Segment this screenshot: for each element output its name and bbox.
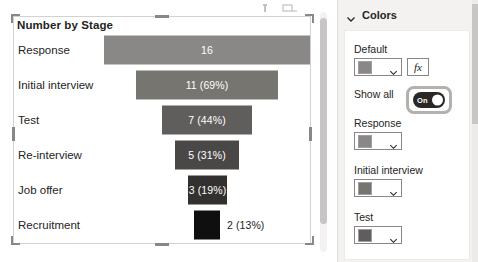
funnel-data-label: 5 (31%) (188, 149, 225, 161)
series-color-dropdown[interactable] (354, 179, 402, 197)
funnel-plot-area[interactable]: Response16Initial interview11 (69%)Test7… (14, 32, 310, 242)
chevron-down-icon (389, 231, 398, 240)
default-color-dropdown[interactable] (354, 58, 402, 76)
chevron-down-icon (389, 184, 398, 193)
funnel-row[interactable]: Recruitment2 (13%) (14, 207, 310, 242)
funnel-bar[interactable]: 16 (104, 35, 310, 64)
chart-title: Number by Stage (17, 19, 113, 31)
show-all-label: Show all (354, 88, 394, 100)
funnel-data-label: 2 (13%) (227, 219, 264, 231)
colors-section-header[interactable]: Colors (338, 4, 473, 26)
format-pane[interactable]: Colors Default fx Show all ResponseIniti… (337, 0, 478, 262)
show-all-field: Show all (354, 88, 394, 103)
colors-card: Default fx Show all ResponseInitial inte… (344, 30, 470, 260)
chevron-down-icon (389, 137, 398, 146)
funnel-bar[interactable]: 5 (31%) (175, 140, 239, 169)
funnel-data-label: 16 (201, 44, 213, 56)
series-color-label: Initial interview (354, 164, 423, 176)
funnel-data-label: 11 (69%) (186, 79, 229, 91)
visual-scrollbar-thumb[interactable] (320, 18, 327, 224)
funnel-bar[interactable]: 2 (13%) (194, 210, 220, 239)
funnel-category-label: Recruitment (18, 219, 80, 231)
funnel-data-label: 3 (19%) (189, 184, 226, 196)
chevron-down-icon (389, 63, 398, 72)
funnel-row[interactable]: Response16 (14, 32, 310, 67)
funnel-bar[interactable]: 3 (19%) (188, 175, 227, 204)
funnel-bar[interactable]: 7 (44%) (162, 105, 252, 134)
focus-mode-icon[interactable] (282, 3, 296, 14)
funnel-category-label: Test (18, 114, 39, 126)
default-color-swatch (358, 61, 372, 74)
default-color-label: Default (354, 43, 429, 55)
funnel-row[interactable]: Test7 (44%) (14, 102, 310, 137)
series-color-dropdown[interactable] (354, 226, 402, 244)
filter-icon[interactable] (258, 3, 272, 14)
resize-handle-top-right[interactable] (305, 14, 314, 23)
series-color-label: Response (354, 117, 402, 129)
funnel-category-label: Initial interview (18, 79, 93, 91)
conditional-formatting-fx-button[interactable]: fx (407, 58, 429, 76)
funnel-data-label: 7 (44%) (188, 114, 225, 126)
toggle-knob (432, 95, 443, 106)
show-all-toggle-focus-ring[interactable]: On (406, 86, 452, 114)
series-color-field: Test (354, 211, 402, 244)
series-color-field: Initial interview (354, 164, 423, 197)
series-color-swatch (358, 182, 372, 195)
default-color-field: Default fx (354, 43, 429, 76)
series-color-field: Response (354, 117, 402, 150)
funnel-category-label: Job offer (18, 184, 63, 196)
pane-scrollbar-thumb[interactable] (472, 4, 478, 124)
series-color-swatch (358, 229, 372, 242)
chevron-down-icon (346, 10, 356, 20)
funnel-row[interactable]: Initial interview11 (69%) (14, 67, 310, 102)
funnel-category-label: Response (18, 44, 70, 56)
series-color-swatch (358, 135, 372, 148)
series-color-label: Test (354, 211, 402, 223)
visual-header-icons[interactable] (258, 0, 318, 14)
show-all-toggle[interactable]: On (413, 92, 445, 108)
funnel-bar[interactable]: 11 (69%) (136, 70, 278, 99)
colors-section-title: Colors (362, 9, 397, 21)
funnel-row[interactable]: Re-interview5 (31%) (14, 137, 310, 172)
show-all-toggle-state: On (417, 96, 428, 105)
funnel-category-label: Re-interview (18, 149, 82, 161)
funnel-row[interactable]: Job offer3 (19%) (14, 172, 310, 207)
funnel-visual-container[interactable]: Number by Stage Response16Initial interv… (0, 0, 330, 262)
resize-handle-top-center[interactable] (155, 15, 169, 18)
series-color-dropdown[interactable] (354, 132, 402, 150)
resize-handle-bottom-center[interactable] (155, 243, 169, 246)
